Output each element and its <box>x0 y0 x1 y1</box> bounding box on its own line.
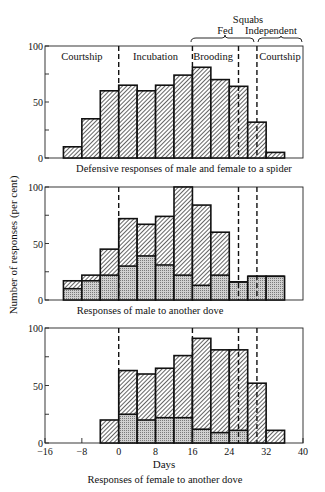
y-tick-label: 0 <box>38 153 43 164</box>
y-axis-title: Number of responses (per cent) <box>7 175 20 314</box>
bar-stippled-part <box>119 266 137 300</box>
bar-stippled-part <box>137 256 155 300</box>
y-tick-label: 50 <box>33 97 43 108</box>
bar <box>211 80 229 158</box>
bar <box>156 368 174 443</box>
independent-label: Independent <box>245 25 297 36</box>
x-tick-label: −8 <box>77 446 88 457</box>
panel-bottom: 050100−16−80816243240 <box>28 323 308 457</box>
bar <box>137 224 155 300</box>
bar <box>137 91 155 158</box>
y-tick-label: 0 <box>38 295 43 306</box>
phase-label: Incubation <box>133 51 179 62</box>
bar-stippled-part <box>211 275 229 300</box>
bar-stippled-part <box>192 429 210 443</box>
phase-label: Brooding <box>193 51 233 62</box>
squabs-header: Squabs Fed Independent <box>191 14 302 42</box>
bar <box>266 276 284 300</box>
bar-stippled-part <box>211 433 229 443</box>
x-axis-title: Days <box>153 458 176 470</box>
bar <box>156 216 174 300</box>
fed-brace <box>191 35 254 42</box>
bar <box>174 75 192 158</box>
bar <box>174 356 192 443</box>
bar-stippled-part <box>100 275 118 300</box>
bar-stippled-part <box>156 418 174 443</box>
x-tick-label: 32 <box>261 446 271 457</box>
bar <box>156 85 174 158</box>
x-tick-label: 0 <box>116 446 121 457</box>
bar-stippled-part <box>156 265 174 300</box>
bar <box>63 147 81 158</box>
x-tick-label: 8 <box>153 446 158 457</box>
fed-label: Fed <box>217 25 234 36</box>
bar <box>82 119 100 158</box>
bar <box>174 187 192 300</box>
bar-stippled-part <box>174 418 192 443</box>
caption-bottom: Responses of female to another dove <box>88 474 243 485</box>
bar <box>63 281 81 300</box>
bar-stippled-part <box>63 289 81 300</box>
bar <box>192 338 210 443</box>
y-tick-label: 100 <box>28 41 43 52</box>
bar <box>211 350 229 443</box>
bar <box>137 374 155 443</box>
bar-stippled-part <box>82 281 100 300</box>
bar <box>100 91 118 158</box>
bar <box>119 85 137 158</box>
y-tick-label: 100 <box>28 323 43 334</box>
y-tick-label: 50 <box>33 381 43 392</box>
x-tick-label: 40 <box>298 446 308 457</box>
panel-middle: 050100 <box>28 182 303 306</box>
bar <box>266 152 284 158</box>
caption-middle: Responses of male to another dove <box>77 305 224 316</box>
x-tick-label: 16 <box>187 446 197 457</box>
caption-top: Defensive responses of male and female t… <box>76 163 292 174</box>
bar-stippled-part <box>119 414 137 443</box>
phase-label: Courtship <box>61 51 102 62</box>
bar-stippled-part <box>192 285 210 300</box>
independent-brace <box>258 36 302 42</box>
panel-top: 050100CourtshipIncubationBroodingCourtsh… <box>28 41 303 164</box>
bar <box>119 219 137 300</box>
bar <box>100 249 118 300</box>
bar-stippled-part <box>174 275 192 300</box>
bar <box>211 232 229 300</box>
bar <box>119 371 137 443</box>
bar <box>266 430 284 443</box>
squabs-label: Squabs <box>233 14 263 25</box>
x-tick-label: −16 <box>37 446 53 457</box>
phase-label: Courtship <box>259 51 300 62</box>
y-tick-label: 100 <box>28 182 43 193</box>
histogram-figure: Squabs Fed Independent Number of respons… <box>0 0 325 492</box>
bar <box>100 420 118 443</box>
bar <box>192 67 210 158</box>
bar-stippled-part <box>266 276 284 300</box>
bar <box>82 275 100 300</box>
bar-stippled-part <box>137 420 155 443</box>
x-tick-label: 24 <box>224 446 234 457</box>
y-tick-label: 50 <box>33 239 43 250</box>
bar <box>192 205 210 300</box>
